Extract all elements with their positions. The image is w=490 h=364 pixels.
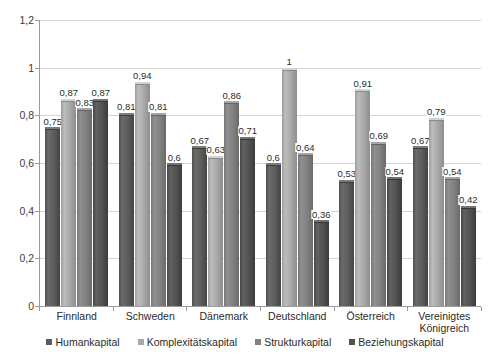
bar-cap <box>151 113 166 116</box>
bar[interactable]: 0,81 <box>119 113 134 306</box>
bar[interactable]: 0,86 <box>224 101 239 306</box>
bar[interactable]: 0,54 <box>387 177 402 306</box>
bar[interactable]: 0,53 <box>339 180 354 306</box>
bar-body <box>77 111 92 306</box>
bar-group: 0,610,640,36 <box>261 20 335 306</box>
bar-body <box>45 130 60 306</box>
bar-slot: 0,87 <box>93 20 108 306</box>
bar-body <box>339 183 354 306</box>
bar-value-label: 0,42 <box>459 195 479 205</box>
bar-slot: 0,94 <box>135 20 150 306</box>
bar-cap <box>314 220 329 223</box>
bar-cap <box>119 113 134 116</box>
bar-body <box>266 166 281 306</box>
bar-group: 0,670,630,860,71 <box>187 20 261 306</box>
plot-wrapper: 00,20,40,60,811,2 0,750,870,830,870,810,… <box>0 0 490 305</box>
bar-slot: 0,83 <box>77 20 92 306</box>
bar-cap <box>208 156 223 159</box>
bar[interactable]: 1 <box>282 68 297 306</box>
category-label: Vereinigtes Königreich <box>408 310 482 334</box>
bar-slot: 0,6 <box>266 20 281 306</box>
bar-cap <box>167 163 182 166</box>
bar-body <box>429 121 444 306</box>
bar-value-label: 0,94 <box>133 71 153 81</box>
bar-value-label: 0,69 <box>369 131 389 141</box>
bar-body <box>135 85 150 306</box>
category-label: Dänemark <box>187 310 261 334</box>
bar-value-label: 0,54 <box>385 167 405 177</box>
bar-value-label: 0,79 <box>427 107 447 117</box>
y-axis-tick-label: 0 <box>0 301 34 312</box>
legend-label: Beziehungskapital <box>358 337 443 348</box>
bar[interactable]: 0,6 <box>266 163 281 306</box>
bar-value-label: 0,81 <box>117 102 137 112</box>
bar[interactable]: 0,69 <box>371 142 386 306</box>
bar-value-label: 0,83 <box>75 98 95 108</box>
bar[interactable]: 0,6 <box>167 163 182 306</box>
bar-groups: 0,750,870,830,870,810,940,810,60,670,630… <box>40 20 481 306</box>
bar-body <box>387 180 402 306</box>
bar-body <box>371 145 386 306</box>
bar-slot: 0,63 <box>208 20 223 306</box>
category-label: Österreich <box>334 310 408 334</box>
bar[interactable]: 0,79 <box>429 118 444 306</box>
legend-label: Strukturkapital <box>264 337 331 348</box>
legend-item[interactable]: Strukturkapital <box>255 337 331 348</box>
bar[interactable]: 0,36 <box>314 220 329 306</box>
bar-cap <box>282 68 297 71</box>
bar-body <box>151 116 166 306</box>
bar-group: 0,530,910,690,54 <box>334 20 408 306</box>
category-tick-mark <box>481 307 482 311</box>
bar-cap <box>461 206 476 209</box>
bar-slot: 0,67 <box>192 20 207 306</box>
bar-cap <box>266 163 281 166</box>
bar-body <box>445 180 460 306</box>
bar-value-label: 0,53 <box>337 169 357 179</box>
legend-swatch-icon <box>255 339 261 345</box>
bar-slot: 0,86 <box>224 20 239 306</box>
bar-value-label: 0,6 <box>266 153 280 163</box>
bar-value-label: 0,91 <box>353 79 373 89</box>
bar[interactable]: 0,67 <box>413 146 428 306</box>
y-axis-tick-label: 1 <box>0 62 34 73</box>
bar[interactable]: 0,87 <box>93 99 108 306</box>
y-axis-tick-label: 0,2 <box>0 253 34 264</box>
bar-body <box>240 140 255 306</box>
bar-value-label: 0,54 <box>443 167 463 177</box>
bar-cap <box>371 142 386 145</box>
bar-body <box>119 116 134 306</box>
bar[interactable]: 0,67 <box>192 146 207 306</box>
bar-slot: 0,91 <box>355 20 370 306</box>
bar[interactable]: 0,91 <box>355 89 370 306</box>
bar-slot: 0,53 <box>339 20 354 306</box>
bar[interactable]: 0,87 <box>61 99 76 306</box>
category-label: Finnland <box>40 310 114 334</box>
bar[interactable]: 0,54 <box>445 177 460 306</box>
bar-cap <box>224 101 239 104</box>
y-axis-tick-label: 0,6 <box>0 158 34 169</box>
bar-group: 0,750,870,830,87 <box>40 20 114 306</box>
legend-item[interactable]: Komplexitätskapital <box>138 337 237 348</box>
bar-value-label: 0,64 <box>296 143 316 153</box>
bar[interactable]: 0,42 <box>461 206 476 306</box>
y-axis-tick-label: 0,4 <box>0 205 34 216</box>
bar[interactable]: 0,94 <box>135 82 150 306</box>
bar-slot: 0,54 <box>387 20 402 306</box>
bar-slot: 0,75 <box>45 20 60 306</box>
bar-slot: 0,79 <box>429 20 444 306</box>
bar-body <box>355 92 370 306</box>
bar[interactable]: 0,75 <box>45 127 60 306</box>
legend-item[interactable]: Beziehungskapital <box>349 337 443 348</box>
bar[interactable]: 0,64 <box>298 153 313 306</box>
bar-cap <box>355 89 370 92</box>
bar[interactable]: 0,63 <box>208 156 223 306</box>
legend-item[interactable]: Humankapital <box>46 337 119 348</box>
bar-value-label: 0,81 <box>149 102 169 112</box>
bar[interactable]: 0,71 <box>240 137 255 306</box>
bar-value-label: 0,67 <box>411 136 431 146</box>
bar-slot: 0,54 <box>445 20 460 306</box>
bar[interactable]: 0,83 <box>77 108 92 306</box>
bar-slot: 0,87 <box>61 20 76 306</box>
bar[interactable]: 0,81 <box>151 113 166 306</box>
bar-slot: 0,69 <box>371 20 386 306</box>
